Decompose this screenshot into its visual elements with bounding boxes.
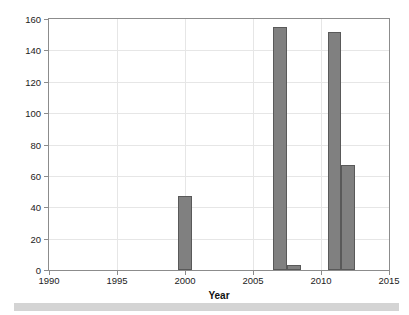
y-axis-tick bbox=[44, 176, 49, 177]
x-axis-tick-label: 1995 bbox=[106, 275, 127, 286]
bar-2008 bbox=[287, 265, 301, 270]
figure-canvas: Number of days with Q<0.005 cumecs 02040… bbox=[0, 0, 409, 315]
y-axis-tick-label: 20 bbox=[30, 233, 41, 244]
plot-area: 0204060801001201401601990199520002005201… bbox=[48, 18, 390, 271]
y-axis-tick-label: 40 bbox=[30, 202, 41, 213]
gridline-vertical bbox=[117, 19, 118, 270]
y-axis-tick bbox=[44, 82, 49, 83]
x-axis-title: Year bbox=[48, 290, 390, 301]
x-axis-tick-label: 2000 bbox=[174, 275, 195, 286]
x-axis-tick-label: 2005 bbox=[242, 275, 263, 286]
y-axis-tick bbox=[44, 239, 49, 240]
y-axis-tick-label: 80 bbox=[30, 139, 41, 150]
x-axis-tick-label: 2015 bbox=[378, 275, 399, 286]
y-axis-tick bbox=[44, 19, 49, 20]
y-axis-tick-label: 120 bbox=[25, 76, 41, 87]
y-axis-tick-label: 100 bbox=[25, 108, 41, 119]
bar-2011 bbox=[328, 32, 342, 270]
bar-2000 bbox=[178, 196, 192, 270]
y-axis-tick-label: 160 bbox=[25, 14, 41, 25]
y-axis-tick-label: 0 bbox=[36, 265, 41, 276]
y-axis-title: Number of days with Q<0.005 cumecs bbox=[7, 0, 21, 32]
y-axis-tick-label: 140 bbox=[25, 45, 41, 56]
bar-2007 bbox=[273, 27, 287, 270]
y-axis-tick bbox=[44, 207, 49, 208]
x-axis-tick-label: 2010 bbox=[310, 275, 331, 286]
gridline-vertical bbox=[253, 19, 254, 270]
y-axis-tick bbox=[44, 145, 49, 146]
y-axis-tick-label: 60 bbox=[30, 170, 41, 181]
gridline-vertical bbox=[321, 19, 322, 270]
x-axis-tick-label: 1990 bbox=[38, 275, 59, 286]
bar-2012 bbox=[341, 165, 355, 270]
y-axis-tick bbox=[44, 113, 49, 114]
y-axis-tick bbox=[44, 50, 49, 51]
page-bottom-strip bbox=[14, 303, 399, 311]
